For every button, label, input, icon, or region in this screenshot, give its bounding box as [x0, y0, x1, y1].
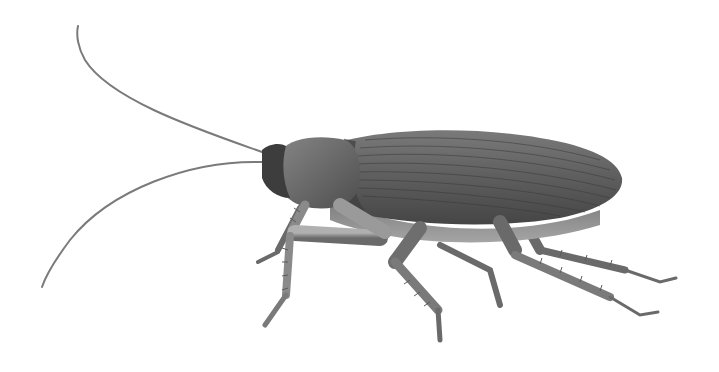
antennae — [42, 26, 262, 287]
pronotum — [278, 137, 360, 208]
illustration-canvas: cockroach illustration — [0, 0, 719, 372]
cockroach-illustration — [0, 0, 719, 372]
